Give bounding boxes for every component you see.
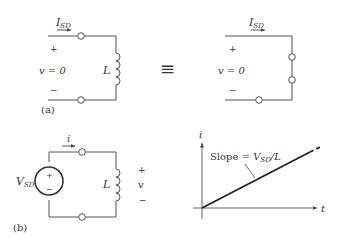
slope-leader-line [245, 164, 255, 178]
plus-sign: + [138, 165, 146, 175]
circuit-b: + − VSD i L + v − (b) [13, 133, 147, 233]
voltage-label: v = 0 [39, 65, 66, 76]
minus-sign: − [139, 195, 147, 205]
plus-sign: + [50, 44, 58, 54]
current-label: ISD [55, 16, 71, 30]
circuit-a-right: ISD + v = 0 − [218, 16, 295, 103]
x-axis-label: t [321, 203, 326, 214]
terminal-node-bottom [256, 97, 263, 104]
terminal-node-lower [289, 77, 296, 84]
figure-b-label: (b) [13, 222, 27, 233]
current-ramp-continuation [310, 146, 322, 152]
source-minus-sign: − [46, 185, 53, 194]
inductor-coil [116, 169, 120, 201]
y-axis-label: i [199, 129, 202, 140]
minus-sign: − [50, 85, 58, 95]
terminal-node-upper [289, 54, 296, 61]
current-vs-time-graph: i t Slope = VSD/L [193, 129, 326, 219]
inductor-coil [116, 53, 120, 85]
figure-a-label: (a) [41, 104, 55, 115]
slope-annotation: Slope = VSD/L [210, 151, 281, 164]
voltage-label: v = 0 [218, 65, 245, 76]
current-label: i [67, 133, 70, 144]
terminal-node-top [78, 33, 85, 40]
source-label: VSD [16, 175, 35, 189]
current-label: ISD [248, 16, 264, 30]
terminal-node-bottom [79, 214, 86, 221]
circuit-a-left: ISD + v = 0 − L (a) [39, 16, 120, 115]
inductor-label: L [102, 64, 110, 77]
terminal-node-top [79, 149, 86, 156]
inductor-label: L [102, 178, 110, 191]
equivalence-symbol: ≡ [160, 58, 175, 79]
terminal-node-bottom [78, 97, 85, 104]
minus-sign: − [229, 85, 237, 95]
source-plus-sign: + [46, 171, 53, 180]
plus-sign: + [229, 44, 237, 54]
voltage-label: v [138, 179, 144, 190]
circuit-diagram-figure: ISD + v = 0 − L (a) ≡ ISD + v = 0 − [0, 0, 339, 243]
